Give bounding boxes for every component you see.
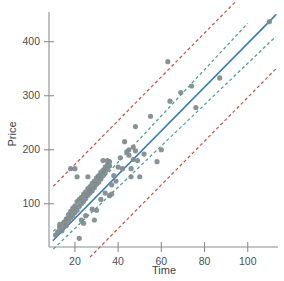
data-point	[135, 158, 140, 163]
data-point	[90, 207, 95, 212]
data-point	[148, 114, 153, 119]
data-point	[137, 174, 142, 179]
data-point	[193, 105, 198, 110]
data-point	[131, 157, 136, 162]
data-point	[165, 59, 170, 64]
data-point	[141, 151, 146, 156]
prediction-band-group	[53, 2, 276, 257]
data-point	[94, 208, 99, 213]
y-axis-title: Price	[6, 121, 18, 146]
data-point	[74, 174, 79, 179]
regression-fit	[53, 15, 276, 240]
data-point	[72, 166, 77, 171]
data-point	[81, 221, 86, 226]
data-point	[118, 155, 123, 160]
regression-line-group	[53, 15, 276, 240]
x-tick-label: 20	[69, 255, 81, 267]
data-point	[109, 191, 114, 196]
data-point	[167, 99, 172, 104]
prediction-upper	[53, 2, 234, 186]
x-tick-label: 100	[239, 255, 257, 267]
data-point	[154, 159, 159, 164]
x-axis-title: Time	[152, 264, 176, 276]
data-point	[128, 174, 133, 179]
data-point	[107, 163, 112, 168]
data-point	[98, 197, 103, 202]
data-point	[267, 19, 272, 24]
x-tick-label: 40	[112, 255, 124, 267]
data-point	[103, 190, 108, 195]
data-point	[120, 166, 125, 171]
data-point	[126, 153, 131, 158]
data-point	[133, 124, 138, 129]
data-point	[85, 174, 90, 179]
data-point	[83, 213, 88, 218]
y-tick-label: 300	[22, 89, 40, 101]
scatter-plot-figure: 100200300400 20406080100 Time Price	[0, 0, 284, 281]
y-tick-label: 200	[22, 143, 40, 155]
data-point	[122, 139, 127, 144]
data-point	[109, 182, 114, 187]
data-point	[133, 148, 138, 153]
x-tick-label: 80	[199, 255, 211, 267]
data-point	[77, 236, 82, 241]
data-point	[217, 75, 222, 80]
data-point	[159, 147, 164, 152]
data-point	[178, 90, 183, 95]
data-point	[111, 173, 116, 178]
data-point	[126, 147, 131, 152]
y-tick-label: 400	[22, 35, 40, 47]
data-point	[113, 178, 118, 183]
data-point	[92, 217, 97, 222]
data-point	[189, 83, 194, 88]
plot-canvas: 100200300400 20406080100 Time Price	[0, 0, 284, 281]
data-point	[128, 166, 133, 171]
y-tick-label: 100	[22, 197, 40, 209]
